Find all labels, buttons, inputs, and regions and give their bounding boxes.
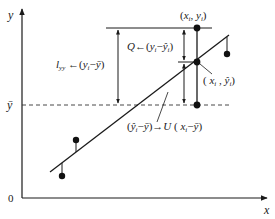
y-axis-label: y	[7, 8, 14, 22]
data-point	[59, 173, 65, 179]
pointer-regression	[157, 92, 168, 122]
data-point	[73, 137, 79, 143]
pointer-fitted	[200, 64, 212, 74]
regression-line	[50, 35, 229, 172]
residual-label: Q←(yi−ŷi)	[127, 40, 174, 54]
total-deviation-label: lyy ←(yi−ȳ)	[56, 58, 105, 72]
fitted-point	[194, 59, 201, 66]
data-point	[224, 51, 230, 57]
origin-label: 0	[8, 192, 14, 204]
fitted-point-label: ( xi , ŷi)	[203, 74, 235, 88]
observed-point	[194, 25, 201, 32]
mean-point	[194, 102, 201, 109]
regression-diagram: y x 0 ȳ	[0, 0, 275, 219]
mean-label: ȳ	[6, 98, 13, 112]
observed-point-label: (xi, yi)	[180, 9, 207, 23]
regression-label: (ŷi−ȳ)→U ( xi−ȳ)	[127, 120, 202, 134]
x-axis-label: x	[263, 203, 270, 217]
